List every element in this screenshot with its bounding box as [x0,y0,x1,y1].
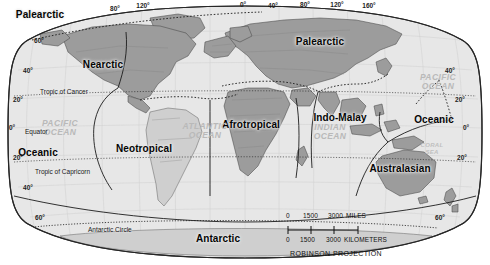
realm-label-antarctic-9: Antarctic [196,233,240,244]
latitude-tick-left-4: 20° [13,154,23,161]
reference-line-label-1: Equator [25,128,48,135]
realm-label-australasian-8: Australasian [369,163,430,174]
realm-label-nearctic-1: Nearctic [83,59,123,70]
latitude-tick-right-3: 20° [457,154,467,161]
longitude-tick-top-6: 160° [362,2,375,9]
scale-miles-tick-2: 3000 [328,212,343,219]
realm-label-oceanic-5: Oceanic [414,114,454,125]
latitude-tick-right-2: 0° [463,124,469,131]
scale-miles-tick-1: 1500 [303,212,318,219]
latitude-tick-left-5: 40° [23,184,33,191]
realm-label-palearctic-2: Palearctic [296,36,344,47]
reference-line-label-3: Antarctic Circle [88,226,132,233]
latitude-tick-left-6: 60° [35,214,45,221]
longitude-tick-top-0: 80° [110,5,120,12]
longitude-tick-top-3: 40° [268,2,278,9]
latitude-tick-right-0: 40° [445,67,455,74]
longitude-tick-top-5: 120° [330,1,343,8]
latitude-tick-left-1: 40° [23,67,33,74]
projection-label: ROBINSON PROJECTION [290,250,382,257]
realm-label-afrotropical-7: Afrotropical [222,119,280,130]
reference-line-label-2: Tropic of Capricorn [35,168,90,175]
realm-label-indo-malay-3: Indo-Malay [313,112,366,123]
ocean-label-3: PACIFICOCEAN [420,73,456,91]
longitude-tick-top-2: 0° [240,1,246,8]
longitude-tick-top-1: 120° [136,2,149,9]
scale-miles-tick-0: 0 [286,212,290,219]
scale-km-unit: KILOMETERS [344,236,387,243]
sea-label-0: CORALSEA [421,142,444,155]
reference-line-label-0: Tropic of Cancer [40,88,88,95]
ocean-label-2: INDIANOCEAN [314,123,347,141]
realm-label-neotropical-6: Neotropical [116,143,172,154]
ocean-label-1: ATLANTICOCEAN [182,122,227,140]
latitude-tick-right-4: 60° [435,214,445,221]
latitude-tick-left-2: 20° [13,96,23,103]
scale-km-tick-1: 1500 [300,236,315,243]
realm-label-palearctic-0: Palearctic [16,9,64,20]
scale-km-tick-0: 0 [286,236,290,243]
latitude-tick-left-3: 0° [9,124,15,131]
longitude-tick-top-4: 80° [300,1,310,8]
realm-label-oceanic-4: Oceanic [18,147,58,158]
scale-km-tick-2: 3000 [326,236,341,243]
scale-miles-unit: MILES [346,212,366,219]
latitude-tick-left-0: 60° [34,37,44,44]
world-map-figure: PalearcticNearcticPalearcticIndo-MalayOc… [0,0,490,265]
latitude-tick-right-1: 20° [455,96,465,103]
